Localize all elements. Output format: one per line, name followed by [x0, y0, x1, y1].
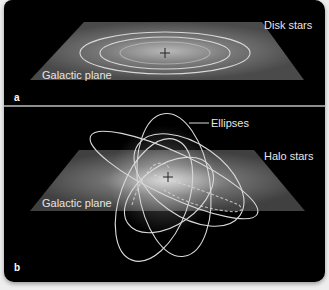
label-halo-stars: Halo stars: [264, 150, 314, 162]
label-galactic-plane-b: Galactic plane: [42, 197, 112, 209]
label-disk-stars: Disk stars: [264, 19, 313, 31]
figure-frame: Disk stars Galactic plane a: [4, 0, 325, 282]
label-ellipses: Ellipses: [211, 117, 249, 129]
label-galactic-plane-a: Galactic plane: [42, 69, 112, 81]
galaxy-orbits-diagram: Disk stars Galactic plane a: [4, 0, 325, 282]
panel-a: Disk stars Galactic plane a: [14, 19, 313, 103]
panel-letter-b: b: [14, 262, 20, 273]
panel-letter-a: a: [14, 92, 20, 103]
panel-b: Ellipses Halo stars Galactic plane b: [14, 109, 314, 273]
